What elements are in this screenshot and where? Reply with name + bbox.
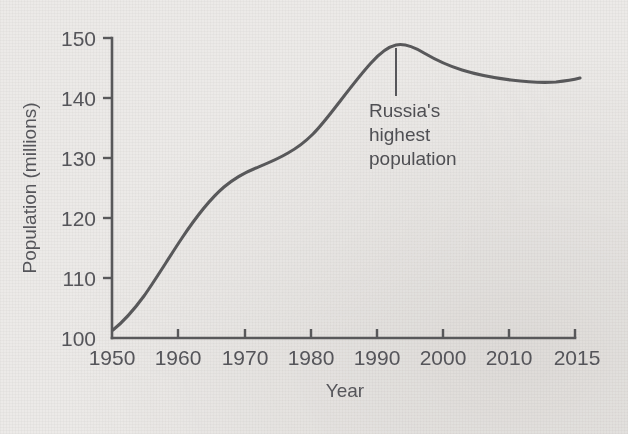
x-axis-tick-labels: 1950 1960 1970 1980 1990 2000 2010 2015 [89,346,601,369]
population-line-chart: 150 140 130 120 110 100 1950 1960 1970 1… [0,0,628,434]
y-axis-tick-labels: 150 140 130 120 110 100 [61,27,96,350]
y-axis-title: Population (millions) [19,102,40,273]
x-tick-label-2015: 2015 [554,346,601,369]
y-tick-label-130: 130 [61,147,96,170]
y-axis-ticks [103,38,112,278]
annotation-line-1: Russia's [369,100,440,121]
population-data-line [113,44,580,330]
peak-annotation: Russia's highest population [369,100,457,169]
x-axis-title: Year [326,380,365,401]
y-tick-label-140: 140 [61,87,96,110]
annotation-line-3: population [369,148,457,169]
x-tick-label-2010: 2010 [486,346,533,369]
x-tick-label-1990: 1990 [354,346,401,369]
x-axis-ticks [178,329,575,338]
chart-page: 150 140 130 120 110 100 1950 1960 1970 1… [0,0,628,434]
x-tick-label-1960: 1960 [155,346,202,369]
y-tick-label-110: 110 [63,267,96,290]
annotation-line-2: highest [369,124,431,145]
x-tick-label-1970: 1970 [222,346,269,369]
y-tick-label-120: 120 [61,207,96,230]
x-tick-label-1950: 1950 [89,346,136,369]
x-tick-label-1980: 1980 [288,346,335,369]
y-tick-label-150: 150 [61,27,96,50]
x-tick-label-2000: 2000 [420,346,467,369]
